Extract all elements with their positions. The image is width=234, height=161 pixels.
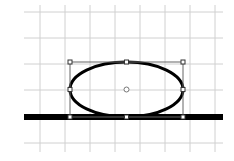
- resize-handle[interactable]: [125, 60, 129, 64]
- resize-handle[interactable]: [181, 88, 185, 92]
- resize-handle[interactable]: [181, 115, 185, 119]
- resize-handle[interactable]: [68, 60, 72, 64]
- resize-handle[interactable]: [125, 115, 129, 119]
- resize-handle[interactable]: [68, 88, 72, 92]
- resize-handle[interactable]: [181, 60, 185, 64]
- center-marker-icon: [124, 87, 129, 92]
- grid: [24, 5, 223, 152]
- drawing-canvas[interactable]: [0, 0, 234, 161]
- resize-handle[interactable]: [68, 115, 72, 119]
